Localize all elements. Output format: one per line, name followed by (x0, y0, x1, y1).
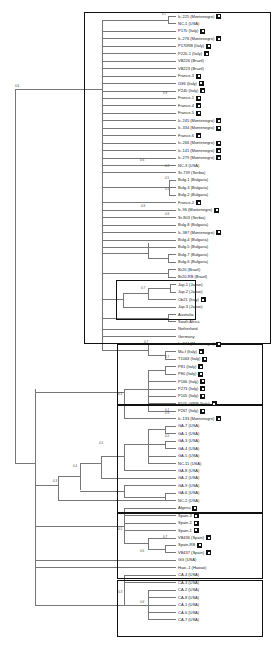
leaf-label: Br20 (Brazil) (178, 267, 200, 272)
leaf-text: P170 (Italy) (178, 28, 198, 33)
leaf-text: South Africa (178, 319, 200, 324)
leaf-text: Jap-3 (Japan) (178, 304, 203, 309)
leaf-label: Sr-739 (Serbia) (178, 170, 205, 175)
leaf-label: I186 (Italy) (178, 81, 204, 86)
leaf-label: France-1 (178, 95, 201, 100)
leaf-label: GA-8 (USA) (178, 468, 199, 473)
leaf-text: GA-3 (USA) (178, 438, 199, 443)
leaf-label: Ic-344 (Montenegro) (178, 341, 221, 346)
leaf-label: P170 (Italy) (178, 28, 205, 33)
leaf-label: P273 (Italy) (178, 386, 205, 391)
leaf-text: Ic-96 (Montenegro) (178, 207, 212, 212)
marker-square-icon (216, 148, 221, 153)
marker-square-icon (192, 506, 197, 511)
leaf-text: France-6 (178, 133, 194, 138)
marker-square-icon (200, 386, 205, 391)
leaf-text: Bulg-4 (Bulgaria) (178, 237, 208, 242)
leaf-text: VB437 (Spain) (178, 550, 204, 555)
leaf-label: Bulg-2 (Bulgaria) (178, 192, 208, 197)
leaf-text: NC-11 (USA) (178, 461, 201, 466)
bootstrap-value: 0.7 (144, 341, 148, 344)
leaf-text: NC-3 (USA) (178, 163, 199, 168)
marker-square-icon (206, 535, 211, 540)
leaf-text: GG (USA) (178, 557, 196, 562)
leaf-label: Ic-245 (Montenegro) (178, 118, 221, 123)
leaf-text: Ic-344 (Montenegro) (178, 341, 214, 346)
leaf-label: Bulg-8 (Bulgaria) (178, 222, 208, 227)
branch-h (35, 392, 124, 393)
marker-square-icon (196, 111, 201, 116)
leaf-label: Australia (178, 312, 194, 317)
leaf-text: CA-1 (USA) (178, 602, 199, 607)
leaf-label: Bulg-3 (Bulgaria) (178, 185, 208, 190)
leaf-text: CA-4 (USA) (178, 572, 199, 577)
leaf-label: Bulg-1 (Bulgaria) (178, 177, 208, 182)
leaf-label: GA-1 (USA) (178, 431, 199, 436)
bootstrap-value: 0.6 (140, 550, 144, 553)
leaf-label: P105 (Italy) (178, 393, 205, 398)
marker-square-icon (199, 81, 204, 86)
leaf-text: Br20-RB (Brazil) (178, 274, 207, 279)
bootstrap-value: 0.7 (163, 536, 167, 539)
bootstrap-value: 0.6 (15, 85, 19, 88)
leaf-text: P105-06RB (Italy) (178, 401, 210, 406)
leaf-label: CA-7 (USA) (178, 617, 199, 622)
marker-square-icon (196, 200, 201, 205)
marker-square-icon (214, 208, 219, 213)
leaf-text: Algeria (178, 505, 190, 510)
marker-square-icon (201, 297, 206, 302)
marker-square-icon (216, 230, 221, 235)
bootstrap-value: 0.6 (140, 601, 144, 604)
leaf-text: P267 (Italy) (178, 408, 198, 413)
marker-square-icon (216, 14, 221, 19)
marker-square-icon (200, 394, 205, 399)
leaf-text: Bulg-3 (Bulgaria) (178, 185, 208, 190)
leaf-label: CA-3 (USA) (178, 580, 199, 585)
leaf-text: France-5 (178, 110, 194, 115)
marker-square-icon (194, 528, 199, 533)
leaf-text: VB226 (Brazil) (178, 58, 204, 63)
leaf-text: Bulg-7 (Bulgaria) (178, 252, 208, 257)
leaf-label: Ic-387 (Montenegro) (178, 230, 221, 235)
leaf-label: VB226 (Brazil) (178, 58, 204, 63)
leaf-label: Netherland (178, 326, 198, 331)
leaf-label: P80 (Italy) (178, 371, 203, 376)
bootstrap-value: 0.3 (53, 480, 57, 483)
leaf-label: Ic-225 (Montenegro) (178, 14, 221, 19)
branch-h (35, 526, 124, 527)
leaf-label: Algeria (178, 505, 197, 510)
leaf-text: GA-4 (USA) (178, 446, 199, 451)
bootstrap-value: 0.7 (162, 13, 166, 16)
leaf-text: Jap-2 (Japan) (178, 289, 203, 294)
leaf-label: GA-7 (USA) (178, 423, 199, 428)
branch-h (58, 476, 80, 477)
leaf-label: P166 (Italy) (178, 379, 205, 384)
leaf-label: Jap-2 (Japan) (178, 289, 203, 294)
leaf-label: Spain-2 (178, 520, 199, 525)
marker-square-icon (196, 133, 201, 138)
marker-square-icon (200, 88, 205, 93)
bootstrap-value: 0.9 (163, 92, 167, 95)
leaf-label: P170RB (Italy) (178, 43, 211, 48)
leaf-label: NC-2 (USA) (178, 498, 199, 503)
marker-square-icon (216, 416, 221, 421)
leaf-label: Bulg-5 (Bulgaria) (178, 244, 208, 249)
leaf-text: P80 (Italy) (178, 371, 196, 376)
marker-square-icon (216, 126, 221, 131)
leaf-text: Ic-334 (Montenegro) (178, 125, 214, 130)
leaf-text: GA-9 (USA) (178, 483, 199, 488)
marker-square-icon (199, 349, 204, 354)
bootstrap-value: 0.6 (140, 159, 144, 162)
leaf-text: Bulg-5 (Bulgaria) (178, 244, 208, 249)
leaf-label: GG (USA) (178, 557, 196, 562)
leaf-text: GA-7 (USA) (178, 423, 199, 428)
leaf-text: P220-1 (Italy) (178, 51, 202, 56)
leaf-label: NC-11 (USA) (178, 461, 201, 466)
leaf-label: Ma.f (Italy) (178, 349, 204, 354)
marker-square-icon (194, 513, 199, 518)
leaf-label: VB223 (Brazil) (178, 66, 204, 71)
leaf-text: Ic-133 (Montenegro) (178, 416, 214, 421)
leaf-label: France-3 (178, 73, 201, 78)
leaf-text: P170RB (Italy) (178, 43, 204, 48)
leaf-text: Spain-RB (178, 542, 195, 547)
